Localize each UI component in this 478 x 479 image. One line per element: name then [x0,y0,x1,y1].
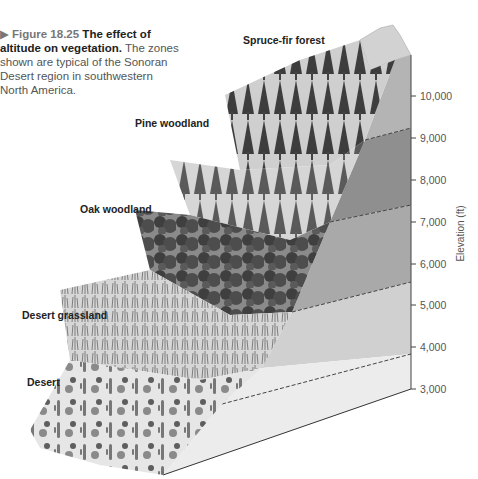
tick-3000: 3,000 [420,383,446,395]
label-spruce-fir-forest: Spruce-fir forest [243,34,325,46]
tick-4000: 4,000 [420,341,446,353]
tick-5000: 5,000 [420,299,446,311]
label-desert: Desert [27,376,60,388]
tick-6000: 6,000 [420,258,446,270]
tick-9000: 9,000 [420,132,446,144]
altitude-vegetation-diagram [0,0,478,479]
label-pine-woodland: Pine woodland [135,117,209,129]
label-desert-grassland: Desert grassland [22,309,107,321]
tick-7000: 7,000 [420,216,446,228]
elevation-axis [411,55,416,389]
tick-10000: 10,000 [420,90,452,102]
label-oak-woodland: Oak woodland [80,203,152,215]
tick-8000: 8,000 [420,174,446,186]
elevation-axis-title: Elevation (ft) [455,189,466,279]
